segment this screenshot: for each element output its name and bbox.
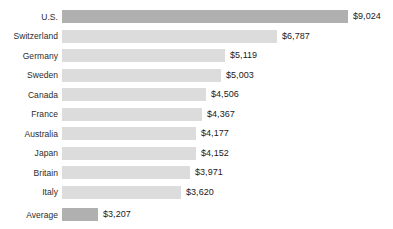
bar-track: $6,787	[62, 27, 393, 47]
value-label: $4,152	[201, 149, 229, 158]
value-label: $5,119	[230, 51, 257, 60]
bar-track: $4,152	[62, 144, 393, 164]
bar-track: $5,119	[62, 46, 393, 66]
bar-row: Japan$4,152	[0, 144, 393, 164]
bar-track: $3,207	[62, 205, 393, 225]
bar	[62, 10, 348, 23]
bar-track: $4,177	[62, 124, 393, 144]
category-label: Average	[0, 211, 58, 220]
bar-row: Australia$4,177	[0, 124, 393, 144]
bar-row: Switzerland$6,787	[0, 27, 393, 47]
value-label: $4,177	[201, 129, 229, 138]
bar	[62, 30, 277, 43]
bar-row: U.S.$9,024	[0, 7, 393, 27]
category-label: Italy	[0, 188, 58, 197]
bar-row: Britain$3,971	[0, 163, 393, 183]
value-label: $3,620	[186, 188, 214, 197]
category-label: France	[0, 110, 58, 119]
category-label: Switzerland	[0, 32, 58, 41]
bar-track: $9,024	[62, 7, 393, 27]
category-label: Britain	[0, 169, 58, 178]
value-label: $4,506	[211, 90, 239, 99]
value-label: $3,971	[195, 168, 223, 177]
bar	[62, 147, 196, 160]
bar-row: France$4,367	[0, 105, 393, 125]
bar	[62, 88, 206, 101]
bar	[62, 69, 221, 82]
category-label: Australia	[0, 130, 58, 139]
bar-track: $5,003	[62, 66, 393, 86]
bar	[62, 166, 190, 179]
category-label: U.S.	[0, 13, 58, 22]
category-label: Japan	[0, 149, 58, 158]
value-label: $6,787	[282, 32, 310, 41]
bar-track: $4,506	[62, 85, 393, 105]
bar-row: Germany$5,119	[0, 46, 393, 66]
bar-row: Sweden$5,003	[0, 66, 393, 86]
value-label: $5,003	[226, 71, 254, 80]
bar	[62, 208, 98, 221]
bar-row: Canada$4,506	[0, 85, 393, 105]
category-label: Germany	[0, 52, 58, 61]
value-label: $3,207	[103, 210, 131, 219]
bar-row: Average$3,207	[0, 205, 393, 225]
bar-chart-rows: U.S.$9,024Switzerland$6,787Germany$5,119…	[0, 7, 393, 225]
bar	[62, 108, 202, 121]
bar	[62, 186, 181, 199]
bar-row: Italy$3,620	[0, 183, 393, 203]
category-label: Sweden	[0, 71, 58, 80]
bar-track: $3,620	[62, 183, 393, 203]
bar	[62, 127, 196, 140]
value-label: $4,367	[207, 110, 235, 119]
bar	[62, 49, 225, 62]
category-label: Canada	[0, 91, 58, 100]
bar-track: $3,971	[62, 163, 393, 183]
bar-chart: U.S.$9,024Switzerland$6,787Germany$5,119…	[0, 0, 393, 229]
bar-track: $4,367	[62, 105, 393, 125]
value-label: $9,024	[353, 12, 381, 21]
